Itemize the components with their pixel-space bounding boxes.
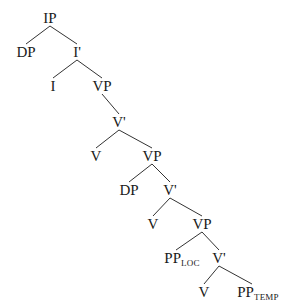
node-v-bar-2: V' [163, 183, 177, 198]
branch-line [50, 26, 77, 44]
branch-line [77, 60, 102, 78]
node-dp-object: DP [119, 183, 138, 198]
branch-line [170, 198, 202, 216]
node-v-1: V [91, 149, 102, 164]
node-v-3: V [199, 285, 210, 300]
branch-line [202, 232, 219, 250]
node-v-bar-3: V' [212, 251, 226, 266]
branch-line [176, 232, 202, 250]
node-v-bar-1: V' [112, 115, 126, 130]
node-vp-1: VP [92, 79, 111, 94]
branch-line [152, 164, 170, 182]
node-i-bar: I' [73, 45, 81, 60]
branch-line [102, 94, 119, 114]
branch-line [96, 130, 119, 148]
node-pp-temp: PPTEMP [237, 285, 279, 302]
node-vp-3: VP [192, 217, 211, 232]
node-pp-loc: PPLOC [164, 251, 199, 268]
node-ip-root: IP [43, 11, 56, 26]
node-dp-specifier: DP [16, 45, 35, 60]
branch-line [153, 198, 170, 216]
branch-line [219, 266, 252, 284]
branch-line [119, 130, 152, 148]
branch-line [53, 60, 77, 78]
node-i-head: I [51, 79, 56, 94]
node-v-2: V [148, 217, 159, 232]
branch-line [204, 266, 219, 284]
branch-line [26, 26, 50, 44]
node-vp-2: VP [142, 149, 161, 164]
branch-line [129, 164, 152, 182]
